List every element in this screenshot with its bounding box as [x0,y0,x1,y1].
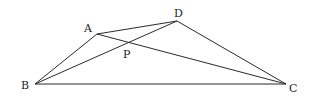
labels-group: A D P B C [21,7,297,95]
segments-group [35,21,286,84]
segment-ad [97,21,177,34]
label-p: P [123,48,131,61]
segment-ba [35,34,97,84]
segment-dc [177,21,286,84]
label-d: D [174,7,183,20]
label-b: B [21,79,29,92]
label-a: A [83,22,93,35]
label-c: C [289,82,297,95]
geometry-diagram: A D P B C [0,0,313,97]
segment-bd [35,21,177,84]
